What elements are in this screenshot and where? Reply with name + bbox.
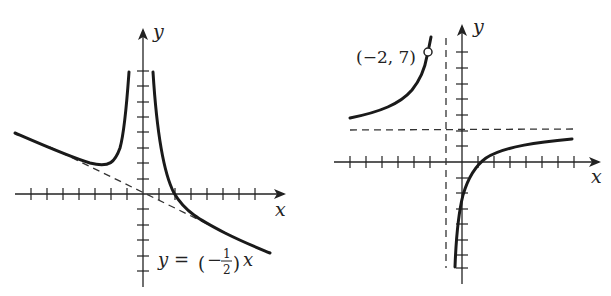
svg-text:x: x [243,249,253,270]
right-curve-right-branch [455,139,572,267]
left-curve-left-branch [15,72,129,165]
point-label: (−2, 7) [356,47,416,67]
left-y-axis-label: y [152,20,164,42]
right-x-axis-label: x [591,165,602,187]
open-circle-point [424,48,432,56]
svg-text:1: 1 [223,247,231,261]
right-horizontal-asymptote [350,129,573,130]
svg-text:(: ( [198,253,205,274]
left-graph: y x y = ( − 1 2 ) x [15,20,286,287]
left-curve-right-branch [153,72,270,253]
svg-text:y =: y = [157,249,189,270]
right-curve-left-branch-top [429,37,431,47]
left-asymptote-equation: y = ( − 1 2 ) x [157,247,253,277]
svg-text:−: − [207,249,222,270]
svg-text:2: 2 [223,263,231,277]
svg-text:): ) [233,253,240,274]
figure-canvas: y x y = ( − 1 2 ) x [0,0,611,296]
left-x-axis-label: x [275,198,286,220]
right-y-axis-label: y [472,15,484,37]
right-graph: y x (−2, 7) [334,15,602,284]
